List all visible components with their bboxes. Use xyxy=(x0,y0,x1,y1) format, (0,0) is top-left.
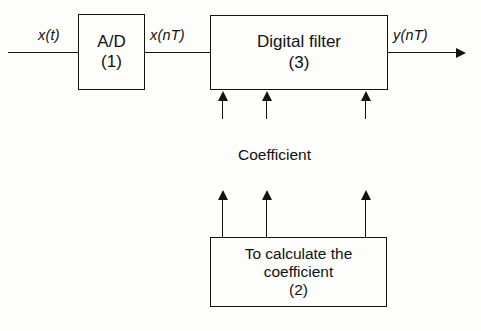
output-signal-arrow xyxy=(388,52,456,53)
calculator-title-line-2: coefficient xyxy=(264,263,334,281)
block-coefficient-calculator: To calculate the coefficient (2) xyxy=(210,237,387,307)
intermediate-signal-label: x(nT) xyxy=(150,28,185,43)
digital-filter-number: (3) xyxy=(289,53,310,73)
block-digital-filter: Digital filter (3) xyxy=(210,15,388,90)
output-signal-label: y(nT) xyxy=(393,28,428,43)
intermediate-signal-wire xyxy=(145,52,210,53)
input-signal-wire xyxy=(8,52,78,53)
input-signal-label: x(t) xyxy=(38,28,60,43)
calculator-title-line-1: To calculate the xyxy=(245,245,353,263)
calculator-number: (2) xyxy=(289,281,308,299)
ad-block-number: (1) xyxy=(101,52,122,72)
block-diagram-figure: x(t) A/D (1) x(nT) Digital filter (3) y(… xyxy=(0,0,481,331)
coefficient-annotation-label: Coefficient xyxy=(238,147,311,163)
block-analog-to-digital: A/D (1) xyxy=(78,14,145,90)
ad-block-title: A/D xyxy=(97,32,125,52)
digital-filter-title: Digital filter xyxy=(257,32,341,52)
coefficient-output-arrow-3 xyxy=(365,199,366,237)
coefficient-output-arrow-1 xyxy=(222,199,223,237)
coefficient-output-arrow-2 xyxy=(266,199,267,237)
